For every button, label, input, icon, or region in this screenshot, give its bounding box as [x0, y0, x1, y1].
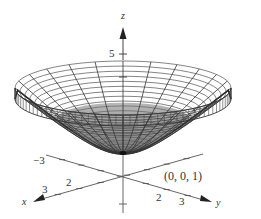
- x-tick-label-2: 2: [66, 176, 72, 188]
- y-tick-label-3: 3: [179, 195, 185, 207]
- vertex-point-label: (0, 0, 1): [164, 169, 202, 183]
- z-tick-label-5: 5: [109, 47, 115, 59]
- z-axis-label: z: [120, 10, 125, 21]
- x-arrow-icon: [33, 194, 45, 202]
- y-arrow-icon: [200, 195, 212, 202]
- z-arrow-icon: [120, 27, 127, 39]
- x-tick-label-3: 3: [42, 183, 48, 195]
- y-tick-label-2: 2: [156, 191, 162, 203]
- y-axis-label: y: [215, 197, 221, 208]
- surface-plot: z 5 x y 3 2 −3 2 3 (0, 0, 1): [0, 0, 261, 219]
- y-tick-label-neg3: −3: [33, 154, 45, 166]
- x-axis-label: x: [21, 196, 27, 207]
- surface-mesh: [15, 61, 231, 155]
